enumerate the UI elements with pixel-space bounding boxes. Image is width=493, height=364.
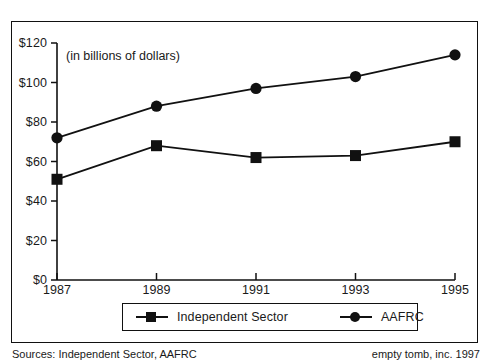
chart-legend: Independent Sector AAFRC [122,303,418,331]
footer-sources: Sources: Independent Sector, AAFRC [12,348,197,360]
y-tick-label-60: $60 [3,155,47,169]
footer-credit: empty tomb, inc. 1997 [372,348,480,360]
x-tick-label-1991: 1991 [233,283,279,297]
legend-label-aafrc: AAFRC [381,310,424,324]
y-tick-label-100: $100 [3,76,47,90]
square-marker-icon [136,311,168,323]
y-tick-label-40: $40 [3,194,47,208]
y-tick-label-20: $20 [3,234,47,248]
legend-item-aafrc: AAFRC [340,310,424,324]
x-tick-label-1995: 1995 [432,283,478,297]
circle-marker-icon [340,311,372,323]
x-tick-label-1987: 1987 [34,283,80,297]
legend-label-independent-sector: Independent Sector [177,310,288,324]
y-tick-label-80: $80 [3,115,47,129]
x-tick-label-1989: 1989 [134,283,180,297]
x-tick-label-1993: 1993 [333,283,379,297]
y-tick-label-120: $120 [3,36,47,50]
units-annotation: (in billions of dollars) [66,49,180,63]
legend-item-independent-sector: Independent Sector [136,310,288,324]
